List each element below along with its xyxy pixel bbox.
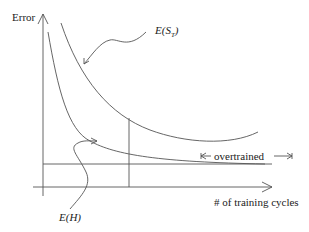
y-axis-label: Error <box>12 12 35 23</box>
x-axis-label: # of training cycles <box>214 197 299 208</box>
overtrained-label: overtrained <box>214 151 264 162</box>
test-label-pointer <box>84 32 146 64</box>
test-error-curve <box>61 23 258 141</box>
training-error-label: E(H) <box>59 212 81 223</box>
test-error-label: E(ST) <box>155 25 178 39</box>
test-error-label-close: ) <box>175 24 179 36</box>
test-error-label-main: E(S <box>155 24 171 36</box>
training-error-curve <box>48 32 265 164</box>
train-label-pointer <box>70 141 97 209</box>
